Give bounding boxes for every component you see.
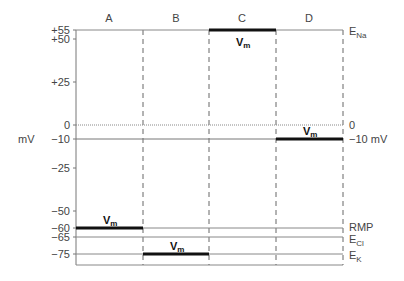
column-label-b: B [172,12,179,24]
ek-label: EK [349,249,362,264]
column-dividers [143,30,343,265]
tick-label: −75 [51,248,70,260]
vm-label-d: Vm [303,125,317,139]
tick-label: 0 [64,119,70,131]
ena-label: ENa [349,25,367,40]
membrane-potential-diagram: A B C D +55 +50 +25 0 −10 −25 −50 −60 −6… [0,0,404,281]
ecl-label: ECl [349,233,364,248]
vm-label-b: Vm [170,240,184,254]
zero-label: 0 [349,119,355,131]
column-label-c: C [238,12,246,24]
vm-label-c: Vm [236,36,250,50]
tick-label: −50 [51,205,70,217]
tick-label: −25 [51,162,70,174]
column-label-d: D [305,12,313,24]
tick-label: +50 [51,33,70,45]
rmp-label: RMP [349,221,373,233]
y-axis-unit: mV [18,133,35,145]
tick-label: −65 [51,231,70,243]
vm-label-a: Vm [103,214,117,228]
column-label-a: A [105,12,113,24]
tick-label: +25 [51,76,70,88]
tick-label: −10 [51,133,70,145]
minus10-label: −10 mV [349,133,388,145]
